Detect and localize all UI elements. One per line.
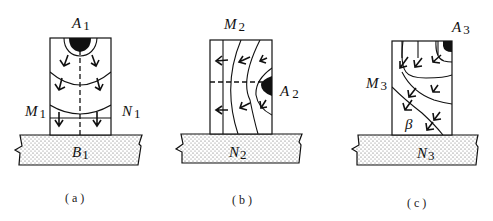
label-a2: A2 [279, 83, 299, 101]
panel-b: M2 A2 N2 ( b ) [176, 16, 302, 207]
caption-b: ( b ) [232, 193, 252, 207]
label-m1: M1 [24, 103, 46, 121]
label-m3: M3 [365, 75, 387, 93]
label-n2: N2 [228, 144, 247, 162]
label-m2: M2 [223, 16, 245, 34]
label-n1: N1 [121, 103, 141, 121]
caption-a: ( a ) [65, 191, 84, 205]
label-a3: A3 [451, 19, 470, 37]
weld-block-c [392, 41, 452, 135]
label-beta: β [404, 116, 413, 132]
base-plate-c [352, 135, 478, 165]
panel-a: A1 M1 N1 B1 ( a ) [15, 15, 142, 205]
diagram-canvas: A1 M1 N1 B1 ( a ) M2 A2 N2 ( b ) [0, 0, 493, 221]
caption-c: ( c ) [407, 196, 426, 210]
label-b1: B1 [72, 144, 89, 162]
label-n3: N3 [416, 145, 435, 163]
panel-c: A3 M3 β N3 ( c ) [352, 19, 478, 210]
label-a1: A1 [71, 15, 90, 33]
